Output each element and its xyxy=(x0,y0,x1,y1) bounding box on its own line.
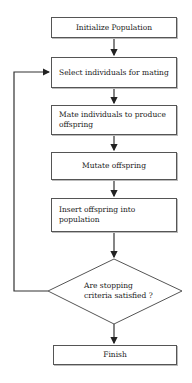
node-label: Finish xyxy=(103,350,127,360)
node-mutate-offspring: Mutate offspring xyxy=(51,152,177,180)
decision-label-line2: criteria satisfied ? xyxy=(84,291,153,301)
node-initialize-population: Initialize Population xyxy=(51,17,177,38)
node-label: Select individuals for mating xyxy=(59,68,169,78)
node-insert-offspring: Insert offspring into population xyxy=(51,198,177,232)
node-mate-individuals: Mate individuals to produce offspring xyxy=(51,105,177,135)
node-label: Insert offspring into population xyxy=(59,205,169,225)
decision-label-line1: Are stopping xyxy=(84,281,153,291)
node-finish: Finish xyxy=(53,345,177,365)
node-label: Mutate offspring xyxy=(82,161,146,171)
node-select-individuals: Select individuals for mating xyxy=(51,57,177,88)
node-label: Mate individuals to produce offspring xyxy=(59,110,169,130)
node-label: Initialize Population xyxy=(76,23,152,33)
decision-label: Are stopping criteria satisfied ? xyxy=(84,281,153,301)
